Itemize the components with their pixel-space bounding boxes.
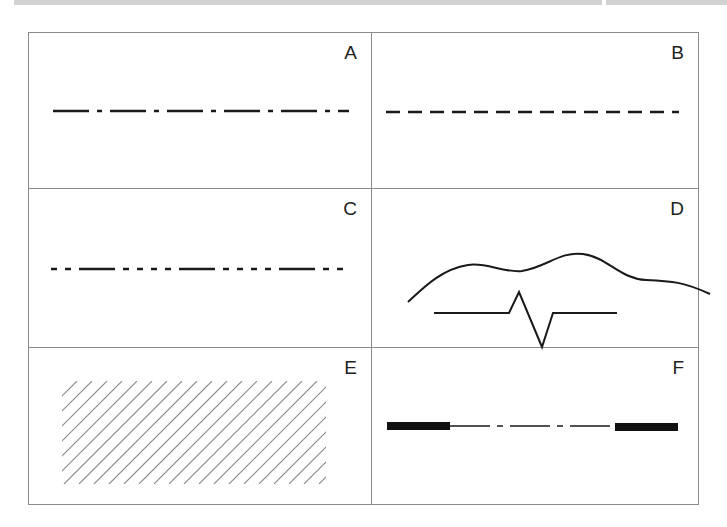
hatching-icon (29, 348, 371, 504)
cutting-plane-line-icon (372, 348, 698, 504)
line-types-grid: A B C D E (28, 32, 699, 505)
top-strip-left (14, 0, 602, 5)
phantom-line-icon (29, 189, 371, 347)
dashed-line-icon (372, 33, 698, 188)
panel-f: F (372, 348, 698, 504)
panel-d: D (372, 189, 698, 348)
panel-e: E (29, 348, 372, 504)
break-lines-icon (372, 189, 698, 347)
top-strip-right (606, 0, 727, 5)
panel-c: C (29, 189, 372, 348)
chain-line-icon (29, 33, 371, 188)
panel-b: B (372, 33, 698, 189)
panel-a: A (29, 33, 372, 189)
